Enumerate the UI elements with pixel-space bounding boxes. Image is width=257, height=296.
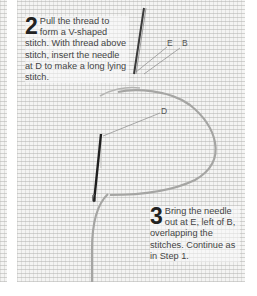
- step-2-text: Pull the thread to form a V-shaped stitc…: [25, 16, 126, 82]
- step-3-instruction: 3 Bring the needle out at E, left of B, …: [150, 206, 240, 262]
- step-2-number: 2: [25, 17, 38, 36]
- leader-line-d: [103, 113, 160, 136]
- point-label-b: B: [182, 38, 188, 48]
- lower-needle-icon: [92, 134, 101, 202]
- point-label-e: E: [167, 38, 173, 48]
- step-2-instruction: 2 Pull the thread to form a V-shaped sti…: [25, 16, 129, 83]
- point-label-d: D: [161, 106, 167, 116]
- top-needle-icon: [134, 8, 146, 74]
- step-3-number: 3: [150, 207, 163, 226]
